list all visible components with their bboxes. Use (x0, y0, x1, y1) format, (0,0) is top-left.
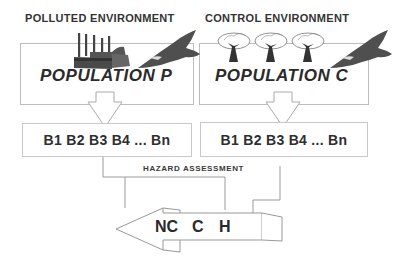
hazard-assessment-label: HAZARD ASSESSMENT (143, 164, 244, 173)
bird-of-prey-icon (138, 30, 200, 68)
outcome-c: C (192, 218, 204, 236)
tree-icon (255, 33, 287, 62)
biomarkers-p-box: B1 B2 B3 B4 ... Bn (22, 123, 192, 157)
down-arrow-p (88, 92, 122, 127)
tree-icon (218, 33, 250, 62)
outcome-h: H (219, 218, 231, 236)
outcome-nc: NC (155, 218, 178, 236)
bird-of-prey-icon (330, 30, 392, 68)
tree-icon (292, 33, 324, 62)
factory-icon (74, 33, 130, 69)
biomarkers-c-box: B1 B2 B3 B4 ... Bn (200, 122, 368, 157)
population-c-label: POPULATION C (215, 66, 348, 86)
population-p-label: POPULATION P (40, 66, 172, 86)
